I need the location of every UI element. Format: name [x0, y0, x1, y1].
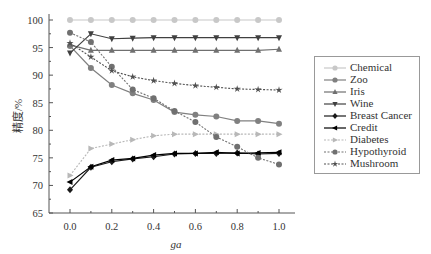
data-marker — [234, 118, 240, 124]
data-marker — [192, 17, 198, 23]
y-tick-label: 70 — [33, 180, 44, 191]
series-iris — [67, 41, 282, 53]
data-marker — [88, 17, 94, 23]
legend-swatch — [323, 62, 347, 74]
data-marker — [150, 77, 157, 84]
data-marker — [193, 131, 199, 137]
plot-area — [66, 17, 282, 193]
data-marker — [67, 17, 73, 23]
data-marker — [151, 133, 157, 139]
data-marker — [234, 17, 240, 23]
data-marker — [332, 149, 337, 154]
data-marker — [276, 17, 282, 23]
legend-item-zoo: Zoo — [315, 74, 419, 86]
x-tick-label: 0.2 — [105, 221, 118, 232]
data-marker — [130, 86, 136, 92]
data-marker — [109, 141, 115, 147]
y-tick-label: 90 — [33, 70, 44, 81]
data-marker — [235, 131, 241, 137]
data-marker — [172, 17, 178, 23]
series-credit — [67, 149, 282, 185]
x-axis-title: ga — [171, 238, 183, 250]
data-marker — [151, 95, 157, 101]
data-marker — [109, 17, 115, 23]
data-marker — [88, 145, 94, 151]
data-marker — [276, 46, 282, 52]
y-axis-title: 精度/% — [11, 99, 24, 133]
data-marker — [332, 77, 337, 82]
series-line — [70, 153, 279, 190]
data-marker — [172, 131, 178, 137]
data-marker — [255, 155, 261, 161]
y-tick-label: 80 — [33, 125, 44, 136]
y-tick-label: 65 — [33, 208, 44, 219]
data-marker — [275, 86, 282, 93]
legend-item-mushroom: Mushroom — [315, 158, 419, 170]
y-tick-label: 100 — [27, 15, 43, 26]
data-marker — [255, 17, 261, 23]
legend: ChemicalZooIrisWineBreast CancerCreditDi… — [314, 56, 420, 174]
series-chemical — [67, 17, 282, 23]
y-tick-label: 95 — [33, 43, 44, 54]
data-marker — [172, 108, 178, 114]
data-marker — [332, 65, 337, 70]
legend-label: Mushroom — [350, 157, 398, 170]
data-marker — [276, 121, 282, 127]
legend-swatch — [323, 86, 347, 98]
legend-swatch — [323, 122, 347, 134]
data-marker — [192, 119, 198, 125]
data-marker — [68, 173, 74, 179]
data-marker — [88, 39, 94, 45]
data-marker — [130, 17, 136, 23]
data-marker — [67, 179, 73, 185]
data-marker — [130, 137, 136, 143]
data-marker — [129, 73, 136, 80]
x-tick-label: 1.0 — [272, 221, 285, 232]
data-marker — [213, 83, 220, 90]
legend-swatch — [323, 134, 347, 146]
legend-swatch — [323, 158, 347, 170]
data-marker — [332, 113, 337, 119]
data-marker — [234, 144, 240, 150]
data-marker — [332, 125, 337, 130]
data-marker — [333, 137, 338, 142]
series-breast-cancer — [67, 149, 282, 193]
data-marker — [276, 161, 282, 167]
data-marker — [213, 17, 219, 23]
x-tick-label: 0.4 — [147, 221, 161, 232]
data-marker — [88, 65, 94, 71]
legend-swatch — [323, 110, 347, 122]
data-marker — [171, 80, 178, 87]
data-marker — [192, 82, 199, 89]
data-marker — [213, 134, 219, 140]
data-marker — [213, 114, 219, 120]
data-marker — [151, 17, 157, 23]
data-marker — [277, 131, 283, 137]
legend-swatch — [323, 74, 347, 86]
data-marker — [109, 82, 115, 88]
data-marker — [67, 51, 73, 57]
data-marker — [256, 131, 262, 137]
data-marker — [67, 30, 73, 36]
x-tick-label: 0.8 — [231, 221, 244, 232]
data-marker — [255, 118, 261, 124]
x-tick-label: 0.6 — [189, 221, 202, 232]
legend-swatch — [323, 146, 347, 158]
series-zoo — [67, 43, 282, 127]
data-marker — [192, 112, 198, 118]
x-tick-label: 0.0 — [63, 221, 76, 232]
y-tick-label: 85 — [33, 98, 44, 109]
y-tick-label: 75 — [33, 153, 44, 164]
legend-swatch — [323, 98, 347, 110]
